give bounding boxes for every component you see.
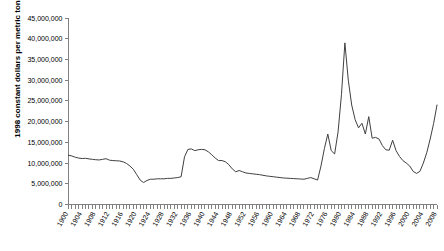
x-tick-label: 1976 xyxy=(315,210,329,227)
x-tick-label: 1900 xyxy=(56,210,70,227)
y-tick-label: 30,000,000 xyxy=(27,77,62,84)
x-tick-label: 1932 xyxy=(165,210,179,227)
x-tick-label: 2008 xyxy=(424,210,438,227)
x-tick-label: 1928 xyxy=(151,210,165,227)
x-tick-label: 1904 xyxy=(69,210,83,227)
x-tick-label: 1948 xyxy=(219,210,233,227)
y-tick-label: 35,000,000 xyxy=(27,56,62,63)
y-tick-label: 15,000,000 xyxy=(27,139,62,146)
x-tick-label: 1936 xyxy=(178,210,192,227)
x-tick-label: 1916 xyxy=(110,210,124,227)
x-tick-label: 1984 xyxy=(342,210,356,227)
x-tick-label: 1940 xyxy=(192,210,206,227)
y-tick-label: 20,000,000 xyxy=(27,118,62,125)
x-tick-label: 1960 xyxy=(260,210,274,227)
y-tick-label: 25,000,000 xyxy=(27,97,62,104)
y-axis-ticks xyxy=(65,18,69,205)
y-tick-label: 5,000,000 xyxy=(31,180,62,187)
x-tick-label: 1920 xyxy=(124,210,138,227)
x-tick-label: 1912 xyxy=(96,210,110,227)
x-tick-label: 1980 xyxy=(328,210,342,227)
x-tick-label: 2004 xyxy=(410,210,424,227)
x-tick-label: 1968 xyxy=(288,210,302,227)
line-chart-plot: 05,000,00010,000,00015,000,00020,000,000… xyxy=(0,0,444,251)
x-axis-ticks xyxy=(69,205,438,209)
x-tick-label: 1956 xyxy=(247,210,261,227)
x-tick-label: 1924 xyxy=(137,210,151,227)
x-tick-label: 1944 xyxy=(206,210,220,227)
x-tick-label: 1988 xyxy=(356,210,370,227)
x-tick-label: 1908 xyxy=(83,210,97,227)
x-tick-label: 1996 xyxy=(383,210,397,227)
x-tick-label: 1992 xyxy=(369,210,383,227)
y-tick-label: 10,000,000 xyxy=(27,160,62,167)
y-axis-tick-labels: 05,000,00010,000,00015,000,00020,000,000… xyxy=(27,15,62,209)
x-tick-label: 1952 xyxy=(233,210,247,227)
x-tick-label: 1972 xyxy=(301,210,315,227)
y-tick-label: 0 xyxy=(59,201,63,208)
y-tick-label: 45,000,000 xyxy=(27,15,62,22)
chart-container: 1998 constant dollars per metric ton 05,… xyxy=(0,0,444,251)
x-tick-label: 1964 xyxy=(274,210,288,227)
data-series-line xyxy=(69,43,438,183)
x-axis-tick-labels: 1900190419081912191619201924192819321936… xyxy=(56,210,438,227)
x-tick-label: 2000 xyxy=(397,210,411,227)
y-tick-label: 40,000,000 xyxy=(27,35,62,42)
